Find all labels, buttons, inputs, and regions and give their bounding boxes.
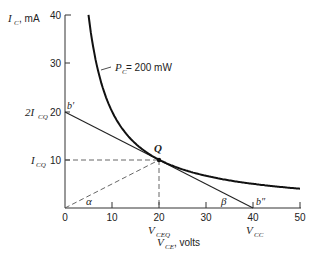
two-icq-sub: CQ — [38, 113, 48, 121]
curve-label-leader — [101, 67, 111, 70]
axes — [65, 15, 301, 208]
two-icq-label: 2I — [25, 106, 36, 118]
vcc-label: V — [246, 224, 254, 236]
y-axis-title-unit: , mA — [19, 13, 40, 24]
beta-label: β — [220, 195, 227, 207]
x-tick-labels: 0 10 20 30 40 50 — [62, 212, 306, 223]
y-axis-title: I C , mA — [7, 12, 40, 27]
y-tick-label: 20 — [50, 107, 62, 118]
vcc-sub: CC — [254, 231, 264, 239]
y-tick-label: 10 — [50, 155, 62, 166]
vceq-label: V — [148, 224, 156, 236]
dashed-guides — [65, 160, 159, 208]
q-point — [157, 158, 161, 162]
curve-label-p: P — [114, 61, 122, 73]
vceq-sub: CEQ — [156, 231, 170, 239]
y-tick-label: 40 — [50, 10, 62, 21]
y-tick-label: 30 — [50, 58, 62, 69]
curve-label-value: = 200 mW — [126, 62, 172, 73]
x-tick-label: 50 — [294, 212, 306, 223]
x-mark-vceq: V CEQ — [148, 224, 170, 239]
x-tick-label: 40 — [247, 212, 259, 223]
y-mark-icq: I CQ — [30, 154, 46, 169]
x-axis-title-unit: , volts — [174, 237, 200, 248]
y-mark-2icq: 2I CQ — [25, 106, 48, 121]
q-label: Q — [154, 142, 162, 154]
icq-sub: CQ — [36, 161, 46, 169]
power-curve — [89, 15, 301, 189]
origin-q-line — [65, 160, 159, 208]
alpha-label: α — [86, 195, 92, 207]
x-tick-label: 20 — [153, 212, 165, 223]
y-tick-labels: 40 30 20 10 — [50, 10, 62, 166]
x-tick-label: 10 — [106, 212, 118, 223]
chart: 40 30 20 10 0 10 20 30 40 50 I C , mA V … — [0, 0, 318, 256]
x-mark-vcc: V CC — [246, 224, 264, 239]
b-double-prime-label: b″ — [256, 196, 266, 207]
x-tick-label: 30 — [200, 212, 212, 223]
y-axis-title-main: I — [7, 12, 13, 24]
curve-label: P C = 200 mW — [114, 61, 172, 76]
b-prime-label: b′ — [67, 100, 75, 111]
x-tick-label: 0 — [62, 212, 68, 223]
